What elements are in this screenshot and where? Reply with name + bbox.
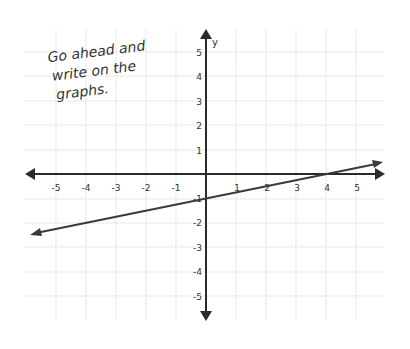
- note-line-3: graphs.: [55, 80, 109, 102]
- x-tick-label: -3: [112, 183, 121, 193]
- y-tick-label: -3: [193, 243, 202, 253]
- x-axis-left-arrow-icon: [25, 168, 35, 180]
- y-tick-label: 1: [196, 146, 202, 156]
- x-tick-label: 1: [234, 183, 240, 193]
- y-tick-label: 4: [196, 72, 202, 82]
- y-axis-label: y: [212, 37, 218, 48]
- y-tick-label: 3: [196, 97, 202, 107]
- x-axis-right-arrow-icon: [375, 168, 385, 180]
- x-tick-label: 4: [324, 183, 330, 193]
- x-tick-label: 5: [354, 183, 360, 193]
- x-tick-label: 3: [294, 183, 300, 193]
- y-axis-up-arrow-icon: [200, 29, 212, 39]
- y-tick-label: -5: [193, 292, 202, 302]
- x-tick-label: -1: [172, 183, 181, 193]
- x-tick-label: -4: [82, 183, 91, 193]
- handwritten-note: Go ahead and write on the graphs.: [47, 37, 151, 103]
- x-tick-label: 2: [264, 183, 270, 193]
- y-tick-label: 5: [196, 48, 202, 58]
- y-tick-label: -2: [193, 218, 202, 228]
- coordinate-graph: -5 -4 -3 -2 -1 1 2 3 4 5 5 4 3 2 1 -1 -2…: [0, 0, 410, 349]
- y-tick-label: -1: [193, 194, 202, 204]
- y-axis-down-arrow-icon: [200, 311, 212, 321]
- y-tick-label: 2: [196, 121, 202, 131]
- x-tick-label: -2: [142, 183, 151, 193]
- line-left-arrow-icon: [30, 228, 42, 236]
- x-tick-label: -5: [52, 183, 61, 193]
- line-right-arrow-icon: [372, 160, 383, 168]
- y-tick-label: -4: [193, 267, 202, 277]
